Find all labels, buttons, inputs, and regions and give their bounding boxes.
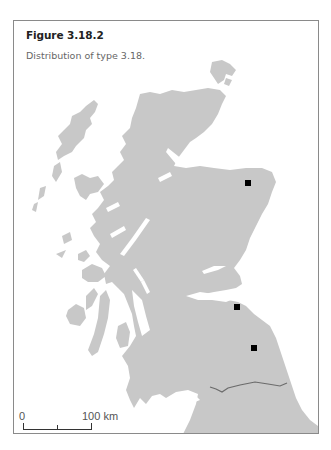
- site-marker: [234, 304, 240, 310]
- scale-bar: [23, 423, 92, 430]
- figure-caption: Distribution of type 3.18.: [26, 50, 145, 61]
- orkney-islands: [210, 60, 236, 84]
- scale-start-label: 0: [19, 410, 25, 422]
- solway-firth: [168, 394, 200, 406]
- mull: [82, 264, 106, 282]
- figure-title: Figure 3.18.2: [26, 29, 104, 41]
- mainland: [90, 88, 318, 440]
- map-of-scotland: [0, 0, 331, 450]
- site-marker: [245, 180, 251, 186]
- site-marker: [251, 345, 257, 351]
- outer-hebrides: [56, 100, 98, 160]
- arran: [116, 322, 130, 348]
- islay: [66, 304, 86, 326]
- skye: [74, 174, 104, 200]
- scale-end-label: 100 km: [82, 410, 118, 422]
